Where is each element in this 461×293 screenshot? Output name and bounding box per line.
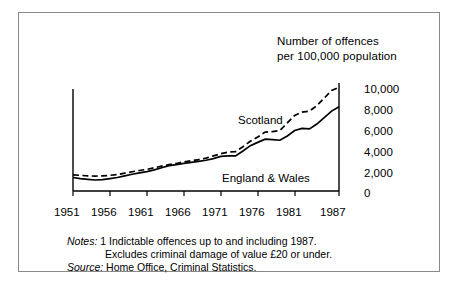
x-tick-label-1971: 1971 xyxy=(202,207,228,219)
y-tick-label-4000: 4,000 xyxy=(364,147,393,159)
y-tick-label-2000: 2,000 xyxy=(364,168,393,180)
figure-notes: Notes: 1 Indictable offences up to and i… xyxy=(67,235,332,275)
y-tick-label-0: 0 xyxy=(364,188,370,200)
y-tick-label-8000: 8,000 xyxy=(364,105,393,117)
chart-plot-area xyxy=(19,13,441,271)
x-tick-label-1961: 1961 xyxy=(128,207,154,219)
x-axis-ticks xyxy=(73,191,339,196)
series-label-scotland: Scotland xyxy=(238,115,283,127)
x-tick-label-1976: 1976 xyxy=(239,207,265,219)
series-line-scotland xyxy=(73,87,339,176)
notes-label: Notes: xyxy=(67,235,97,247)
data-series-group xyxy=(73,87,339,180)
x-tick-label-1981: 1981 xyxy=(276,207,302,219)
notes-row-1: Notes: 1 Indictable offences up to and i… xyxy=(67,235,332,248)
y-tick-label-10000: 10,000 xyxy=(364,84,399,96)
notes-text-1: 1 Indictable offences up to and includin… xyxy=(100,235,316,247)
notes-text-2: Excludes criminal damage of value £20 or… xyxy=(105,248,332,260)
source-row: Source: Home Office, Criminal Statistics… xyxy=(67,261,332,274)
figure-frame: Number of offences per 100,000 populatio… xyxy=(18,12,440,272)
x-tick-label-1966: 1966 xyxy=(165,207,191,219)
series-line-england-wales xyxy=(73,107,339,180)
source-text: Home Office, Criminal Statistics. xyxy=(106,261,256,273)
source-label: Source: xyxy=(67,261,103,273)
series-label-england-wales: England & Wales xyxy=(222,173,310,185)
y-tick-label-6000: 6,000 xyxy=(364,126,393,138)
x-tick-label-1951: 1951 xyxy=(54,207,80,219)
x-tick-label-1987: 1987 xyxy=(320,207,346,219)
notes-row-2: Excludes criminal damage of value £20 or… xyxy=(67,248,332,261)
x-tick-label-1956: 1956 xyxy=(91,207,117,219)
